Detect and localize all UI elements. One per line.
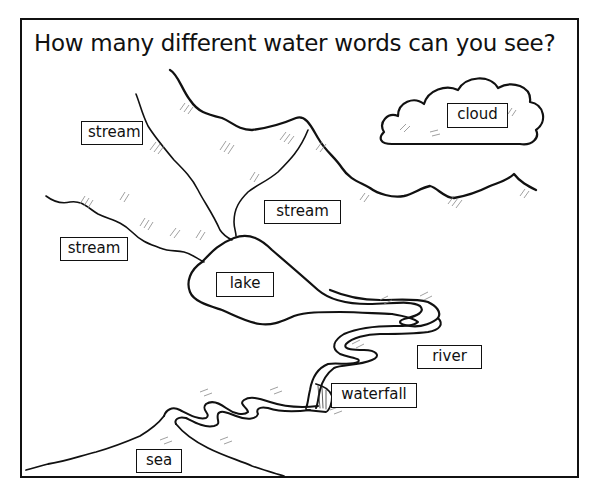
coastline-right xyxy=(176,424,284,476)
river-lower-upper-bank xyxy=(164,398,318,419)
label-stream-middle: stream xyxy=(264,200,341,224)
label-sea: sea xyxy=(136,449,182,473)
label-stream-left: stream xyxy=(60,237,128,261)
hatching-texture xyxy=(80,103,529,444)
label-waterfall: waterfall xyxy=(331,383,417,408)
label-lake: lake xyxy=(216,272,274,297)
label-river: river xyxy=(417,345,482,369)
label-cloud: cloud xyxy=(447,103,508,128)
label-stream-top-left: stream xyxy=(81,121,143,145)
mountain-ridge-top xyxy=(170,70,536,198)
